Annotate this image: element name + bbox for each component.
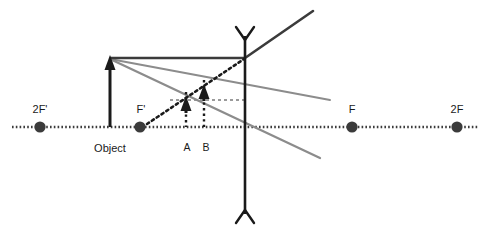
label-f-prime: F' (137, 103, 146, 115)
ray-gray-upper (110, 59, 330, 100)
image-a-arrowhead-icon (181, 96, 192, 111)
label-f: F (349, 103, 356, 115)
image-b-arrowhead-icon (199, 84, 210, 99)
label-2f: 2F (451, 103, 464, 115)
lens-top-arrowhead-icon (236, 27, 254, 40)
label-point-b: B (202, 141, 209, 153)
lens-bottom-arrowhead-icon (236, 210, 254, 223)
ray-refracted-upward (245, 11, 313, 58)
ray-diagram-canvas: 2F' F' F 2F Object A B (0, 0, 489, 234)
point-dot-f-prime (134, 121, 145, 132)
label-2f-prime: 2F' (33, 103, 48, 115)
label-object: Object (94, 142, 126, 154)
point-dot-f (346, 121, 357, 132)
point-dot-2f (451, 121, 462, 132)
point-dot-2f-prime (34, 121, 45, 132)
label-point-a: A (183, 141, 190, 153)
